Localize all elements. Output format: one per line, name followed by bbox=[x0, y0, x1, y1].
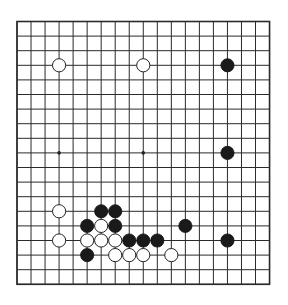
black-stone bbox=[81, 249, 94, 262]
go-board[interactable] bbox=[0, 0, 288, 305]
white-stone bbox=[52, 234, 65, 247]
black-stone bbox=[179, 219, 192, 232]
white-stone bbox=[123, 249, 136, 262]
black-stone bbox=[95, 205, 108, 218]
black-stone bbox=[81, 219, 94, 232]
white-stone bbox=[137, 249, 150, 262]
white-stone bbox=[95, 234, 108, 247]
white-stone bbox=[109, 249, 122, 262]
black-stone bbox=[221, 146, 234, 159]
white-stone bbox=[95, 219, 108, 232]
white-stone bbox=[165, 249, 178, 262]
black-stone bbox=[137, 234, 150, 247]
black-stone bbox=[151, 234, 164, 247]
white-stone bbox=[52, 205, 65, 218]
white-stone bbox=[81, 234, 94, 247]
white-stone bbox=[52, 59, 65, 72]
black-stone bbox=[109, 205, 122, 218]
star-point bbox=[141, 151, 145, 155]
white-stone bbox=[109, 234, 122, 247]
white-stone bbox=[137, 59, 150, 72]
star-point bbox=[57, 151, 61, 155]
black-stone bbox=[221, 234, 234, 247]
black-stone bbox=[123, 234, 136, 247]
black-stone bbox=[109, 219, 122, 232]
black-stone bbox=[221, 59, 234, 72]
